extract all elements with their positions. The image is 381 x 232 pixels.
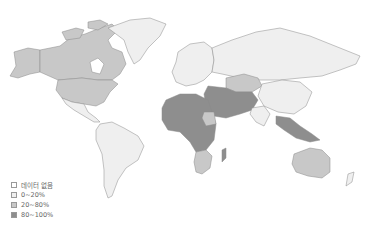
legend-label: 데이터 없음 (21, 180, 53, 190)
region-southern-africa (194, 150, 212, 174)
map-legend: 데이터 없음 0~20% 20~80% 80~100% (11, 180, 53, 220)
region-madagascar (222, 148, 226, 162)
legend-item-no-data: 데이터 없음 (11, 180, 53, 190)
legend-swatch-no-data (11, 182, 17, 188)
region-india (250, 106, 270, 126)
legend-label: 0~20% (21, 191, 45, 199)
region-alaska (10, 48, 40, 78)
region-new-zealand (346, 172, 354, 186)
legend-swatch-20-80 (11, 202, 17, 208)
region-southeast-asia (276, 116, 320, 142)
legend-swatch-0-20 (11, 192, 17, 198)
region-south-america (96, 122, 144, 198)
legend-item-20-80: 20~80% (11, 200, 53, 210)
legend-swatch-80-100 (11, 212, 17, 218)
region-russia (212, 28, 360, 80)
legend-item-80-100: 80~100% (11, 210, 53, 220)
region-europe (172, 42, 214, 86)
legend-label: 20~80% (21, 201, 49, 209)
legend-item-0-20: 0~20% (11, 190, 53, 200)
legend-label: 80~100% (21, 211, 53, 219)
region-australia (292, 148, 330, 178)
world-map (0, 0, 381, 232)
